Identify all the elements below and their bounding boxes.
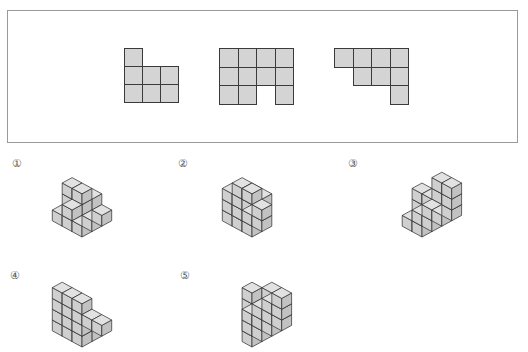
view-cell: [142, 66, 161, 85]
option-label-3[interactable]: ③: [348, 158, 358, 169]
option-figure-5[interactable]: [202, 266, 302, 352]
view-cell: [219, 48, 239, 68]
view-cell: [238, 67, 258, 87]
view-cell: [334, 48, 354, 68]
view-cell: [390, 67, 410, 87]
cube-stack-icon: [202, 156, 302, 246]
view-cell: [256, 48, 276, 68]
option-label-2[interactable]: ②: [178, 158, 188, 169]
view-cell: [353, 48, 373, 68]
view-cell: [142, 84, 161, 103]
view-cell: [124, 48, 143, 67]
view-cell: [160, 84, 179, 103]
cube-stack-icon: [202, 266, 302, 352]
view-cell: [124, 66, 143, 85]
view-cell: [124, 84, 143, 103]
view-cell: [371, 48, 391, 68]
view-cell: [219, 85, 239, 105]
option-figure-1[interactable]: [32, 156, 132, 250]
option-figure-4[interactable]: [32, 266, 132, 352]
view-cell: [238, 85, 258, 105]
cube-stack-icon: [372, 156, 472, 246]
view-cell: [275, 67, 295, 87]
view-cell: [390, 48, 410, 68]
view-cell: [256, 67, 276, 87]
option-label-1[interactable]: ①: [12, 158, 22, 169]
view-cell: [353, 67, 373, 87]
view-cell: [275, 48, 295, 68]
cube-stack-icon: [32, 156, 132, 246]
view-cell: [160, 66, 179, 85]
view-cell: [390, 85, 410, 105]
option-label-4[interactable]: ④: [10, 270, 20, 281]
cube-stack-icon: [32, 266, 132, 352]
option-figure-2[interactable]: [202, 156, 302, 250]
option-label-5[interactable]: ⑤: [180, 270, 190, 281]
option-figure-3[interactable]: [372, 156, 472, 250]
view-cell: [275, 85, 295, 105]
view-cell: [219, 67, 239, 87]
view-cell: [238, 48, 258, 68]
view-cell: [371, 67, 391, 87]
